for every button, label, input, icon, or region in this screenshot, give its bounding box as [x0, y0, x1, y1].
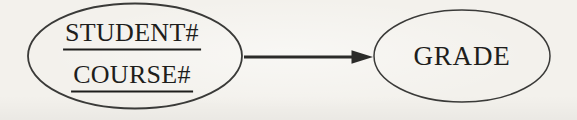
student-number-label: STUDENT#	[63, 20, 201, 51]
fd-arrowhead-icon	[352, 50, 374, 64]
determinant-label: STUDENT# COURSE#	[63, 20, 201, 93]
grade-label: GRADE	[414, 43, 511, 70]
course-number-label: COURSE#	[71, 62, 193, 93]
fd-diagram: STUDENT# COURSE# GRADE	[0, 0, 577, 120]
